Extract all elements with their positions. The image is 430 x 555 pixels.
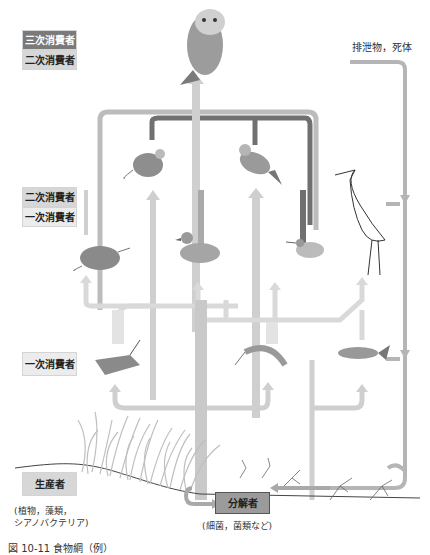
owl-illustration (180, 9, 225, 85)
label-primary-consumer-low: 一次消費者 (22, 352, 77, 376)
figure-caption: 図 10-11 食物網（例） (8, 540, 113, 555)
arrow-head-right-2 (400, 350, 410, 359)
label-secondary-consumer-top: 二次消費者 (22, 50, 77, 70)
stem-grasshopper (112, 310, 124, 344)
mouse-illustration (124, 149, 165, 178)
label-primary-consumer-mid: 一次消費者 (22, 207, 77, 227)
excretion-label: 排泄物，死体 (352, 42, 412, 54)
decomposer-box: 分解者 (215, 492, 270, 514)
label-secondary-consumer-mid: 二次消費者 (22, 187, 77, 207)
producer-note-line1: (植物，藻類， (14, 505, 72, 517)
branch-network (86, 283, 362, 340)
producer-note-line2: シアノバクテリア) (14, 517, 89, 529)
heron-illustration (335, 170, 385, 275)
label-producer: 生産者 (22, 472, 77, 496)
arrow-heads-mid (80, 275, 368, 290)
trunk-main (195, 300, 207, 500)
songbird-illustration (236, 144, 282, 185)
arrow-heads-low (109, 382, 368, 392)
arrow-head-from-decomposer (270, 483, 278, 493)
label-tertiary-consumer: 三次消費者 (22, 30, 77, 50)
excretion-flow-arrow (330, 62, 405, 488)
decomposer-note: (細菌，菌類など) (202, 520, 272, 532)
fish-illustration (338, 345, 390, 360)
tertiary-frame (100, 112, 316, 310)
shrew-illustration (74, 246, 130, 271)
stem-shrimp (266, 322, 278, 344)
grasshopper-illustration (95, 340, 140, 375)
arrow-head-right-1 (400, 195, 410, 204)
